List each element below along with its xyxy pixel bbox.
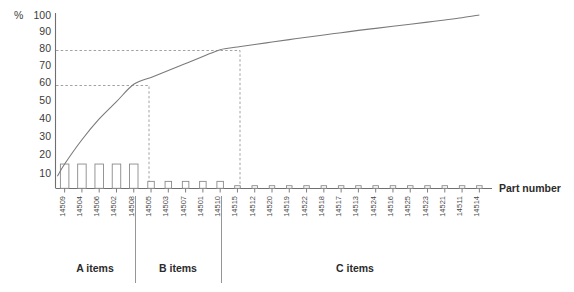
bar-14501 — [200, 181, 207, 188]
bar-14515 — [235, 186, 241, 189]
x-axis-labels: 1450914504145061450214508145051450314507… — [58, 196, 482, 217]
group-label-c: C items — [336, 262, 374, 274]
x-tick-label-14507: 14507 — [179, 196, 188, 217]
bar-14514 — [477, 186, 483, 189]
x-tick-label-14512: 14512 — [248, 196, 257, 217]
y-tick-100: 100 — [33, 9, 51, 21]
x-axis-title: Part number — [499, 182, 561, 194]
x-tick-label-14509: 14509 — [58, 196, 67, 217]
y-axis-unit-label: % — [14, 9, 23, 21]
x-tick-label-14525: 14525 — [403, 196, 412, 217]
bar-14502 — [112, 164, 121, 188]
bar-14522 — [304, 186, 310, 189]
y-tick-60: 60 — [39, 76, 51, 88]
bar-14511 — [459, 186, 465, 189]
bar-14523 — [425, 186, 431, 189]
bar-14517 — [338, 186, 344, 189]
bar-14516 — [390, 186, 396, 189]
bar-14521 — [442, 186, 448, 189]
x-tick-label-14505: 14505 — [144, 196, 153, 217]
x-tick-label-14515: 14515 — [230, 196, 239, 217]
x-tick-marks — [65, 189, 480, 193]
x-tick-label-14501: 14501 — [196, 196, 205, 217]
y-tick-20: 20 — [39, 148, 51, 160]
cumulative-percentage-curve — [57, 15, 479, 176]
y-tick-10: 10 — [39, 167, 51, 179]
y-tick-50: 50 — [39, 94, 51, 106]
bar-14506 — [95, 164, 104, 188]
x-tick-label-14520: 14520 — [265, 196, 274, 217]
bar-14519 — [287, 186, 293, 189]
x-tick-label-14516: 14516 — [386, 196, 395, 217]
bar-14505 — [148, 181, 155, 188]
y-tick-40: 40 — [39, 112, 51, 124]
bar-14507 — [182, 181, 189, 188]
chart-canvas: % 100 90 80 70 60 50 40 30 20 10 1450914… — [0, 0, 574, 292]
x-tick-label-14517: 14517 — [334, 196, 343, 217]
y-tick-70: 70 — [39, 59, 51, 71]
x-tick-label-14510: 14510 — [213, 196, 222, 217]
x-tick-label-14504: 14504 — [75, 196, 84, 217]
x-tick-label-14511: 14511 — [455, 196, 464, 216]
pareto-abc-chart: % 100 90 80 70 60 50 40 30 20 10 1450914… — [0, 0, 574, 292]
x-tick-label-14503: 14503 — [161, 196, 170, 217]
x-tick-label-14502: 14502 — [109, 196, 118, 217]
bar-14524 — [373, 186, 379, 189]
bar-14504 — [78, 164, 87, 188]
bar-14525 — [407, 186, 413, 189]
x-tick-label-14514: 14514 — [472, 196, 481, 217]
y-tick-80: 80 — [39, 42, 51, 54]
bar-14520 — [269, 186, 275, 189]
bar-14508 — [130, 164, 139, 188]
cumulative-curve-layer — [57, 15, 479, 176]
x-tick-label-14521: 14521 — [438, 196, 447, 217]
x-tick-label-14506: 14506 — [92, 196, 101, 217]
group-label-b: B items — [159, 262, 197, 274]
x-tick-label-14518: 14518 — [317, 196, 326, 217]
bars-layer — [60, 164, 482, 188]
bar-14510 — [217, 181, 224, 188]
y-tick-30: 30 — [39, 130, 51, 142]
bar-14512 — [252, 186, 258, 189]
x-tick-label-14524: 14524 — [369, 196, 378, 217]
x-tick-label-14513: 14513 — [351, 196, 360, 217]
bar-14503 — [165, 181, 172, 188]
x-tick-label-14522: 14522 — [300, 196, 309, 217]
bar-14518 — [321, 186, 327, 189]
y-tick-90: 90 — [39, 25, 51, 37]
x-tick-label-14508: 14508 — [127, 196, 136, 217]
group-label-a: A items — [76, 262, 114, 274]
x-tick-label-14523: 14523 — [421, 196, 430, 217]
x-tick-label-14519: 14519 — [282, 196, 291, 217]
bar-14513 — [356, 186, 362, 189]
